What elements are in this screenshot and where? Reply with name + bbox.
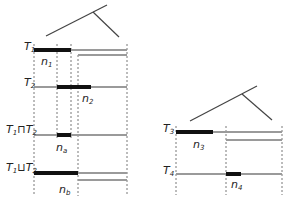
label-n4: n4 — [231, 178, 242, 192]
row-t3 — [176, 132, 282, 140]
label-t3: T3 — [163, 122, 174, 136]
left-tree — [46, 5, 119, 37]
label-t1-meet-t2: T1⊓T2 — [6, 123, 38, 137]
label-na: na — [56, 141, 67, 155]
diagram-canvas: T1 n1 T2 n2 T1⊓T2 na T1⊔T2 nb T3 n3 T4 n… — [0, 0, 296, 201]
right-dashed-guides — [176, 126, 282, 195]
row-join — [34, 173, 127, 180]
label-t2: T2 — [24, 76, 36, 90]
label-t1-join-t2: T1⊔T2 — [6, 161, 38, 175]
label-n1: n1 — [41, 55, 52, 69]
label-nb: nb — [59, 183, 71, 197]
label-n3: n3 — [193, 138, 204, 152]
label-n2: n2 — [82, 92, 94, 106]
right-tree — [190, 86, 272, 121]
label-t1: T1 — [24, 40, 35, 54]
label-t4: T4 — [163, 164, 174, 178]
